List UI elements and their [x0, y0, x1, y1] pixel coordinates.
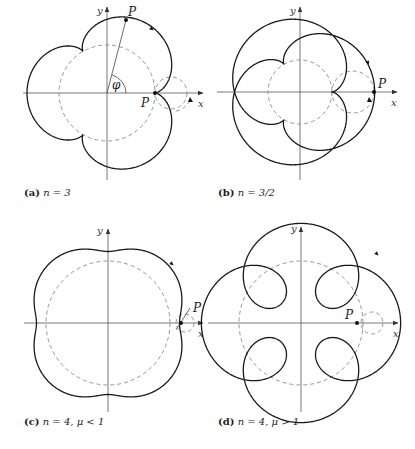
caption-tag: (a) [24, 187, 40, 198]
label-x: x [391, 97, 397, 108]
panel-c: P x y [24, 225, 204, 412]
rolling-arrow-icon [188, 97, 193, 102]
label-y: y [96, 225, 103, 236]
caption-expr: n = 4, μ > 1 [238, 416, 300, 427]
label-y: y [290, 223, 297, 234]
point-p [179, 321, 183, 325]
label-phi: φ [112, 78, 121, 92]
point-p [372, 90, 376, 94]
label-p: P [377, 77, 387, 91]
caption-expr: n = 4, μ < 1 [43, 416, 105, 427]
label-y: y [96, 5, 103, 16]
label-p-top: P [127, 5, 137, 19]
panel-d: P x y [201, 223, 400, 423]
caption-b: (b) n = 3/2 [218, 187, 275, 198]
caption-expr: n = 3/2 [238, 187, 275, 198]
caption-tag: (c) [24, 416, 40, 427]
rolling-arrow-icon [367, 97, 372, 102]
panel-b: P x y [217, 5, 397, 180]
caption-expr: n = 3 [43, 187, 71, 198]
direction-arrow-icon [374, 251, 380, 257]
caption-tag: (d) [218, 416, 234, 427]
caption-d: (d) n = 4, μ > 1 [218, 416, 299, 427]
label-p: P [192, 301, 202, 315]
label-x: x [393, 328, 399, 339]
label-x: x [198, 98, 204, 109]
panel-a: P P φ x y [23, 5, 204, 180]
caption-a: (a) n = 3 [24, 187, 71, 198]
figure-canvas: P P φ x y P x y P x y [0, 0, 415, 449]
caption-tag: (b) [218, 187, 234, 198]
point-p [355, 321, 359, 325]
direction-arrow-icon [169, 261, 175, 267]
rolling-direction-arc [176, 100, 190, 111]
caption-c: (c) n = 4, μ < 1 [24, 416, 104, 427]
label-y: y [289, 5, 296, 16]
point-p-cusp [153, 91, 157, 95]
tracing-arm [176, 308, 190, 330]
label-p: P [344, 308, 354, 322]
label-p-cusp: P [140, 96, 150, 110]
